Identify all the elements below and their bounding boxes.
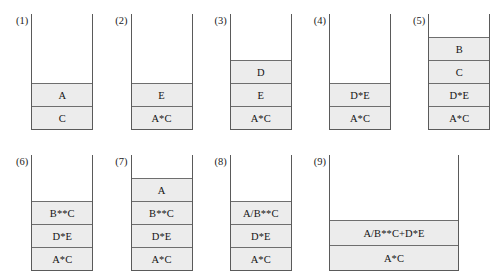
panel-7-cell-2: D*E <box>132 224 192 247</box>
panel-6-label: (6) <box>16 155 31 168</box>
panel-7-empty-space <box>132 155 192 178</box>
panel-9-cell-1: A*C <box>330 245 458 270</box>
panel-3-cell-2: A*C <box>231 106 291 129</box>
panel-1-cell-1: C <box>32 106 92 129</box>
panel-9-label: (9) <box>314 155 329 168</box>
panel-3-stack: D E A*C <box>230 14 292 130</box>
panel-5-cell-2: D*E <box>429 83 489 106</box>
panel-6-cell-0: B**C <box>32 201 92 224</box>
panel-4-empty-space <box>330 14 390 83</box>
panel-8: (8) A/B**C D*E A*C <box>215 155 292 271</box>
panel-9-empty-space <box>330 155 458 220</box>
panel-5-stack: B C D*E A*C <box>428 14 490 130</box>
panel-5-cell-3: A*C <box>429 106 489 129</box>
panel-2-empty-space <box>132 14 192 83</box>
panel-6: (6) B**C D*E A*C <box>16 155 93 271</box>
panel-8-label: (8) <box>215 155 230 168</box>
panel-9: (9) A/B**C+D*E A*C <box>314 155 459 271</box>
panel-2-label: (2) <box>115 14 130 27</box>
panel-1-cell-0: A <box>32 83 92 106</box>
panel-8-stack: A/B**C D*E A*C <box>230 155 292 271</box>
panel-6-empty-space <box>32 155 92 201</box>
panel-6-cell-2: A*C <box>32 247 92 270</box>
panel-3-label: (3) <box>215 14 230 27</box>
panel-2-stack: E A*C <box>131 14 193 130</box>
panel-6-cell-1: D*E <box>32 224 92 247</box>
panel-5-cell-0: B <box>429 37 489 60</box>
panel-2-cell-0: E <box>132 83 192 106</box>
panel-7: (7) A B**C D*E A*C <box>115 155 192 271</box>
panel-5-cell-1: C <box>429 60 489 83</box>
panel-3-cell-0: D <box>231 60 291 83</box>
panel-4-cell-0: D*E <box>330 83 390 106</box>
panel-8-cell-1: D*E <box>231 224 291 247</box>
panel-2: (2) E A*C <box>115 14 192 130</box>
panel-8-empty-space <box>231 155 291 201</box>
panel-8-cell-2: A*C <box>231 247 291 270</box>
panel-9-stack: A/B**C+D*E A*C <box>329 155 459 271</box>
panel-7-cell-3: A*C <box>132 247 192 270</box>
panel-3-cell-1: E <box>231 83 291 106</box>
panel-5-label: (5) <box>413 14 428 27</box>
panel-7-cell-1: B**C <box>132 201 192 224</box>
panel-5-empty-space <box>429 14 489 37</box>
panel-3: (3) D E A*C <box>215 14 292 130</box>
panel-1-label: (1) <box>16 14 31 27</box>
stack-row-top: (1) A C (2) E A*C (3) D E <box>0 14 462 138</box>
panel-3-empty-space <box>231 14 291 60</box>
stack-row-bottom: (6) B**C D*E A*C (7) A B**C D*E A*C (8) <box>0 155 462 277</box>
panel-1-empty-space <box>32 14 92 83</box>
panel-1-stack: A C <box>31 14 93 130</box>
panel-7-stack: A B**C D*E A*C <box>131 155 193 271</box>
panel-6-stack: B**C D*E A*C <box>31 155 93 271</box>
panel-2-cell-1: A*C <box>132 106 192 129</box>
panel-7-cell-0: A <box>132 178 192 201</box>
panel-4-cell-1: A*C <box>330 106 390 129</box>
panel-8-cell-0: A/B**C <box>231 201 291 224</box>
panel-9-cell-0: A/B**C+D*E <box>330 220 458 245</box>
panel-5: (5) B C D*E A*C <box>413 14 490 130</box>
panel-1: (1) A C <box>16 14 93 130</box>
panel-7-label: (7) <box>115 155 130 168</box>
panel-4-stack: D*E A*C <box>329 14 391 130</box>
panel-4: (4) D*E A*C <box>314 14 391 130</box>
panel-4-label: (4) <box>314 14 329 27</box>
